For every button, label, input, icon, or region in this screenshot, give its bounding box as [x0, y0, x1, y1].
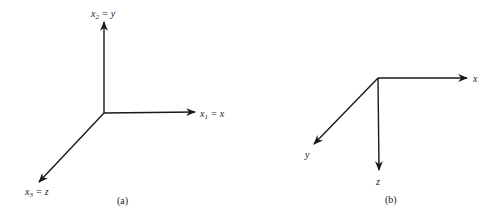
label-x1-equals-x: x1 = x	[199, 108, 225, 121]
label-z: z	[375, 176, 380, 187]
caption-a: (a)	[117, 195, 128, 207]
coordinate-systems-figure: x2 = y x1 = x x3 = z (a) x z y (b)	[0, 0, 497, 214]
figure-a: x2 = y x1 = x x3 = z (a)	[24, 8, 225, 207]
label-x: x	[472, 73, 478, 84]
caption-b: (b)	[385, 194, 397, 206]
axis-x3-downleft-arrow	[39, 113, 104, 182]
axis-y-downleft-arrow	[314, 78, 378, 144]
axis-x1-right-arrow	[104, 112, 195, 113]
label-y: y	[304, 149, 310, 160]
axis-z-down-arrow	[378, 78, 379, 170]
label-x2-equals-y: x2 = y	[90, 8, 116, 21]
label-x3-equals-z: x3 = z	[24, 186, 49, 199]
figure-b: x z y (b)	[304, 73, 478, 206]
